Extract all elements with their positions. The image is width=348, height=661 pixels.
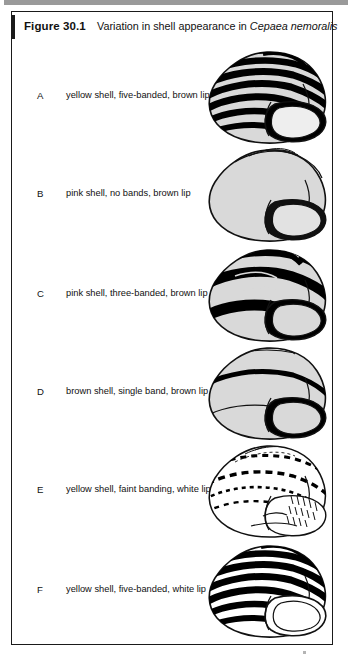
title-prefix-text: Variation in shell appearance in bbox=[97, 20, 250, 32]
scan-artifact-top-band bbox=[0, 0, 348, 5]
shell-illustration-a bbox=[205, 48, 337, 148]
shell-row-f: F yellow shell, five-banded, white lip bbox=[13, 546, 331, 644]
shell-illustration-f bbox=[205, 542, 337, 642]
shell-aperture-outer-e bbox=[265, 496, 326, 536]
row-letter-a: A bbox=[37, 90, 43, 101]
shell-illustration-b bbox=[205, 146, 337, 246]
shell-aperture-lip-b bbox=[272, 204, 321, 236]
page-title: Variation in shell appearance in Cepaea … bbox=[97, 20, 337, 32]
row-caption-d: brown shell, single band, brown lip bbox=[66, 386, 208, 396]
row-letter-e: E bbox=[37, 484, 43, 495]
row-letter-f: F bbox=[37, 584, 43, 595]
shell-illustration-e bbox=[205, 442, 337, 542]
row-caption-a: yellow shell, five-banded, brown lip bbox=[66, 90, 210, 100]
row-caption-b: pink shell, no bands, brown lip bbox=[66, 188, 191, 198]
row-letter-d: D bbox=[37, 386, 44, 397]
shell-row-c: C pink shell, three-banded, brown lip bbox=[13, 250, 331, 348]
scan-artifact-speck bbox=[303, 651, 306, 654]
species-name-text: Cepaea nemoralis bbox=[250, 20, 338, 32]
shell-aperture-lip-c bbox=[272, 304, 321, 336]
shell-row-e: E yellow shell, faint banding, white lip bbox=[13, 446, 331, 544]
title-accent-rule bbox=[11, 15, 15, 39]
shell-illustration-c bbox=[205, 246, 337, 346]
figure-number-label: Figure 30.1 bbox=[24, 20, 86, 32]
row-letter-c: C bbox=[37, 288, 44, 299]
shell-row-b: B pink shell, no bands, brown lip bbox=[13, 150, 331, 248]
shell-aperture-lip-d bbox=[272, 402, 321, 434]
row-caption-f: yellow shell, five-banded, white lip bbox=[66, 584, 206, 594]
shell-illustration-d bbox=[205, 344, 337, 444]
scan-artifact-left-edge bbox=[0, 0, 4, 661]
row-letter-b: B bbox=[37, 188, 43, 199]
figure-title-bar: Figure 30.1 Variation in shell appearanc… bbox=[11, 11, 333, 43]
shell-row-a: A yellow shell, five-banded, brown lip bbox=[13, 52, 331, 150]
row-caption-e: yellow shell, faint banding, white lip bbox=[66, 484, 211, 494]
shell-row-d: D brown shell, single band, brown lip bbox=[13, 348, 331, 446]
shell-aperture-lip-a bbox=[271, 106, 320, 138]
row-caption-c: pink shell, three-banded, brown lip bbox=[66, 288, 208, 298]
